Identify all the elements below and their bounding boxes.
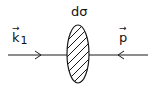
k-subscript: 1 xyxy=(21,34,28,47)
p-vector-arrow: → xyxy=(119,22,127,35)
cross-section-label: dσ xyxy=(71,5,88,18)
k1-label: → k 1 xyxy=(12,31,28,45)
k1-vector-arrow: → xyxy=(12,22,20,35)
dsigma-text: dσ xyxy=(71,4,88,19)
p-label: → p xyxy=(119,31,127,44)
